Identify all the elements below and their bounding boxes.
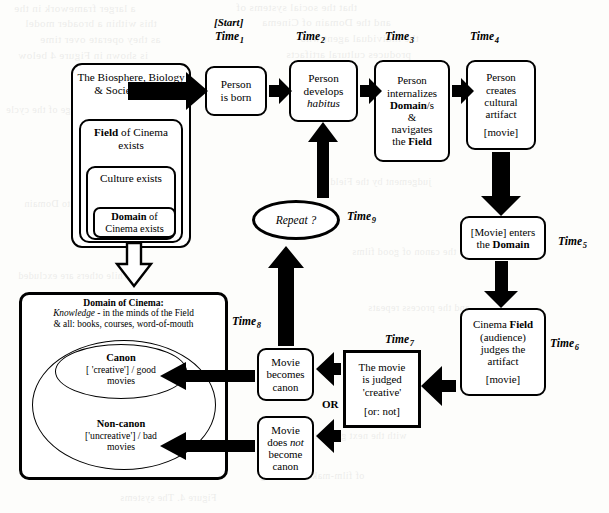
- node-movie-enters-domain[interactable]: [Movie] enters the Domain: [460, 216, 546, 260]
- born-line-2: is born: [221, 91, 252, 104]
- creates-line-5: [movie]: [484, 126, 518, 138]
- habitus-line-1: Person: [308, 72, 338, 85]
- node-field-judges-artifact[interactable]: Cinema Field (audience) judges the artif…: [460, 308, 546, 396]
- ghost-text-9: judgement by the Field: [330, 176, 431, 187]
- noncanon-line-1: ['uncreative'] / bad: [46, 430, 196, 441]
- arrow-judged-to-not-canon: [316, 419, 341, 453]
- label-time-6: Time6: [550, 337, 579, 352]
- judges-line-4: artifact: [488, 355, 519, 367]
- culture-line-2: exists: [136, 172, 161, 184]
- born-line-1: Person: [221, 78, 251, 91]
- creates-line-4: artifact: [486, 108, 517, 120]
- judges-line-2: (audience): [480, 331, 526, 343]
- ghost-text-6: is shown in Figure 4 below: [18, 49, 148, 61]
- repeat-label: Repeat ?: [276, 214, 317, 226]
- label-time-5: Time5: [558, 235, 587, 250]
- not-canon-not-italic: not: [290, 436, 304, 448]
- becomes-canon-line-2: becomes: [266, 368, 304, 380]
- ghost-text-4: as they operate over time: [40, 33, 161, 45]
- arrow-canon-to-repeat: [268, 246, 304, 346]
- canon-line-1: [ 'creative'] / good: [55, 364, 187, 375]
- internalize-line-5: navigates: [391, 123, 432, 135]
- time-7-index: 7: [409, 338, 414, 348]
- domain-exists-label: Domain of Cinema exists: [95, 211, 174, 236]
- internalize-the: the: [392, 135, 408, 147]
- label-time-9: Time9: [347, 210, 376, 225]
- creates-line-3: cultural: [484, 96, 517, 108]
- enters-line-2: the Domain: [477, 238, 530, 250]
- domain-container: Domain of Cinema exists: [93, 207, 176, 238]
- node-creates-artifact[interactable]: Person creates cultural artifact [movie]: [466, 60, 536, 150]
- time-6-base: Time: [550, 337, 574, 349]
- node-does-not-become-canon[interactable]: Movie does not become canon: [257, 416, 314, 480]
- creates-line-2: creates: [486, 84, 516, 96]
- arrow-judged-to-becomes-canon: [316, 352, 341, 386]
- time-1-base: Time: [215, 30, 239, 42]
- label-time-8: Time8: [232, 315, 261, 330]
- domain-box-sub2: & all: books, courses, word-of-mouth: [19, 319, 228, 330]
- culture-label: Culture exists: [88, 172, 174, 185]
- becomes-canon-line-3: canon: [272, 381, 298, 393]
- time-2-base: Time: [296, 30, 320, 42]
- field-bold: Field: [94, 126, 118, 138]
- node-person-is-born[interactable]: Person is born: [205, 66, 267, 116]
- ghost-text-0: a larger framework in the: [14, 2, 136, 14]
- judges-line-3: judges the: [481, 343, 525, 355]
- field-line-1: Field of: [94, 126, 130, 138]
- time-4-base: Time: [470, 30, 494, 42]
- or-label: OR: [322, 398, 339, 410]
- noncanon-title: Non-canon: [46, 418, 196, 430]
- arrow-judges-to-judged: [421, 366, 456, 406]
- internalize-line-3: Domain/s: [390, 99, 434, 111]
- time-5-index: 5: [582, 240, 587, 250]
- ghost-text-11: the canon of good films: [352, 246, 456, 257]
- time-3-base: Time: [385, 30, 409, 42]
- node-develops-habitus[interactable]: Person develops habitus: [289, 60, 358, 122]
- domain-line-1: Domain of: [111, 211, 157, 222]
- time-5-base: Time: [558, 235, 582, 247]
- domain-bold: Domain: [111, 211, 146, 222]
- habitus-line-2: develops: [304, 85, 344, 98]
- time-2-index: 2: [320, 35, 325, 45]
- domain-of: of: [146, 211, 157, 222]
- domain-line-2: Cinema exists: [105, 223, 164, 234]
- node-becomes-canon[interactable]: Movie becomes canon: [257, 348, 314, 401]
- noncanon-line-2: movies: [46, 441, 196, 452]
- canon-line-2: movies: [55, 375, 187, 386]
- internalize-slash-s: /s: [427, 99, 434, 111]
- time-4-index: 4: [494, 35, 499, 45]
- culture-line-1: Culture: [100, 172, 134, 184]
- label-time-7: Time7: [385, 333, 414, 348]
- judged-line-3: 'creative': [363, 386, 401, 398]
- ghost-text-3: and the Domain of Cinema: [262, 16, 391, 28]
- ghost-text-1: that the social systems of: [236, 1, 357, 13]
- domain-box-title: Domain of Cinema:: [19, 297, 228, 308]
- diagram-canvas: a larger framework in thethat the social…: [0, 0, 609, 513]
- ghost-text-7: produces cultural artifacts: [286, 48, 411, 60]
- ghost-text-13: and the process repeats: [368, 302, 470, 313]
- node-internalizes-domain[interactable]: Person internalizes Domain/s & navigates…: [374, 60, 450, 162]
- time-6-index: 6: [574, 342, 579, 352]
- arrow-domain-hollow: [117, 243, 151, 286]
- internalize-field-bold: Field: [408, 135, 432, 147]
- node-repeat-decision[interactable]: Repeat ?: [252, 200, 340, 240]
- ghost-text-14: with the next generation: [300, 430, 407, 441]
- label-time-4: Time4: [470, 30, 499, 45]
- creates-line-1: Person: [486, 71, 516, 83]
- not-canon-does: does: [267, 436, 290, 448]
- internalize-line-4: &: [408, 111, 416, 123]
- enters-line-1: [Movie] enters: [471, 226, 535, 238]
- canon-label: Canon [ 'creative'] / good movies: [55, 352, 187, 386]
- habitus-line-3: habitus: [307, 97, 340, 110]
- time-9-base: Time: [347, 210, 371, 222]
- domain-box-header: Domain of Cinema: Knowledge - in the min…: [19, 297, 228, 329]
- noncanon-label: Non-canon ['uncreative'] / bad movies: [46, 418, 196, 452]
- judges-field-bold: Field: [510, 318, 534, 330]
- judges-line-1: Cinema Field: [473, 318, 533, 330]
- field-label: Field of Cinema exists: [81, 126, 181, 152]
- node-movie-is-judged[interactable]: The movie is judged 'creative' [or: not]: [343, 350, 421, 428]
- domain-box-sub1: Knowledge - in the minds of the Field: [19, 308, 228, 319]
- ghost-text-12: while others are excluded: [18, 270, 130, 281]
- internalize-line-2: internalizes: [387, 87, 437, 99]
- enters-domain-bold: Domain: [493, 238, 530, 250]
